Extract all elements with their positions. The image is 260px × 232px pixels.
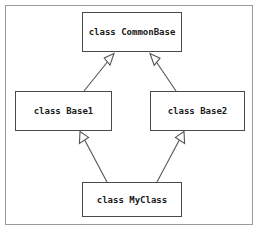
edge-myclass-to-base1 [79, 132, 107, 183]
class-node-myclass[interactable]: class MyClass [82, 182, 182, 217]
class-node-label: class Base2 [168, 106, 228, 116]
edge-myclass-to-base2 [157, 132, 185, 183]
class-node-base2[interactable]: class Base2 [150, 91, 245, 131]
class-node-label: class Base1 [34, 106, 94, 116]
edge-line [84, 61, 109, 92]
class-node-label: class CommonBase [89, 27, 176, 37]
hollow-triangle-arrowhead-icon [150, 54, 160, 66]
hollow-triangle-arrowhead-icon [175, 132, 184, 144]
class-node-base1[interactable]: class Base1 [15, 91, 112, 131]
edge-line [155, 61, 176, 92]
edge-line [157, 140, 180, 183]
diagram-canvas: class CommonBase class Base1 class Base2… [0, 0, 260, 232]
hollow-triangle-arrowhead-icon [79, 132, 88, 144]
edge-line [84, 140, 107, 183]
edge-base1-to-commonbase [84, 54, 114, 92]
class-node-label: class MyClass [97, 195, 167, 205]
edge-base2-to-commonbase [150, 54, 176, 92]
class-node-commonbase[interactable]: class CommonBase [82, 12, 182, 52]
